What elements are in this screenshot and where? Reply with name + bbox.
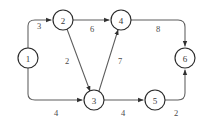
graph-node[interactable]: 1 — [18, 48, 38, 68]
node-label: 5 — [153, 96, 158, 106]
edge-weight-label: 7 — [118, 56, 122, 66]
edge-weight-label: 4 — [121, 108, 126, 118]
graph-node[interactable]: 4 — [111, 10, 131, 30]
edge-weight-label: 3 — [37, 21, 41, 31]
edge-weight-label: 8 — [156, 24, 160, 34]
graph-node[interactable]: 3 — [84, 90, 104, 110]
edge-weight-label: 2 — [174, 108, 178, 118]
graph-canvas: 36842742 123456 — [0, 0, 209, 121]
graph-edge — [165, 70, 185, 100]
edge-weight-label: 6 — [90, 24, 94, 34]
node-label: 4 — [119, 16, 124, 26]
edge-weight-label: 2 — [65, 56, 69, 66]
graph-edge — [67, 29, 90, 91]
graph-edge — [99, 30, 118, 91]
graph-edge — [28, 68, 82, 100]
graph-node[interactable]: 2 — [53, 10, 73, 30]
graph-node[interactable]: 5 — [145, 90, 165, 110]
graph-node[interactable]: 6 — [175, 48, 195, 68]
edges-layer — [28, 20, 185, 100]
node-label: 2 — [61, 16, 66, 26]
node-label: 1 — [26, 54, 31, 64]
directed-weighted-graph-figure: 36842742 123456 — [0, 0, 209, 121]
node-label: 3 — [92, 96, 97, 106]
edge-weight-label: 4 — [54, 108, 59, 118]
node-label: 6 — [183, 54, 188, 64]
nodes-layer: 123456 — [18, 10, 195, 110]
